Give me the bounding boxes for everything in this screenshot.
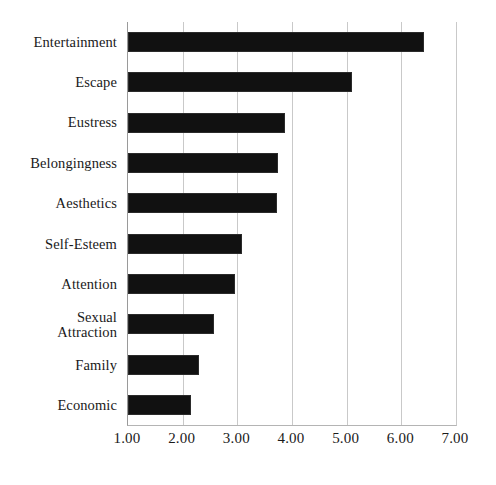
category-label: Economic [0, 386, 124, 426]
category-label: Eustress [0, 103, 124, 143]
bar [128, 314, 214, 334]
category-label: Entertainment [0, 22, 124, 62]
category-label: Family [0, 345, 124, 385]
bar-slot [128, 22, 456, 62]
bar-slot [128, 183, 456, 223]
value-axis: 1.002.003.004.005.006.007.00 [127, 430, 457, 456]
category-label: Escape [0, 62, 124, 102]
category-label: Attention [0, 264, 124, 304]
gridline [456, 22, 457, 425]
x-tick-label: 2.00 [168, 430, 195, 447]
bar [128, 113, 285, 133]
bar [128, 72, 352, 92]
horizontal-bar-chart: Entertainment Escape Eustress Belongingn… [0, 0, 496, 485]
bar-slot [128, 385, 456, 425]
x-tick-label: 3.00 [223, 430, 250, 447]
plot-area [127, 22, 457, 426]
bar-slot [128, 344, 456, 384]
bar-slot [128, 304, 456, 344]
bar [128, 274, 235, 294]
x-tick-label: 4.00 [277, 430, 304, 447]
category-label: Belongingness [0, 143, 124, 183]
category-label: Self-Esteem [0, 224, 124, 264]
bar-slot [128, 143, 456, 183]
bar [128, 355, 199, 375]
bar-series [128, 22, 456, 425]
category-label: Sexual Attraction [0, 305, 124, 345]
x-tick-label: 1.00 [113, 430, 140, 447]
x-tick-label: 6.00 [387, 430, 414, 447]
bar-slot [128, 264, 456, 304]
bar [128, 193, 277, 213]
bar [128, 32, 424, 52]
bar [128, 395, 191, 415]
x-tick-label: 5.00 [332, 430, 359, 447]
bar [128, 234, 242, 254]
category-axis: Entertainment Escape Eustress Belongingn… [0, 22, 124, 426]
bar-slot [128, 103, 456, 143]
bar-slot [128, 223, 456, 263]
bar [128, 153, 278, 173]
category-label: Aesthetics [0, 184, 124, 224]
x-tick-label: 7.00 [441, 430, 468, 447]
bar-slot [128, 62, 456, 102]
